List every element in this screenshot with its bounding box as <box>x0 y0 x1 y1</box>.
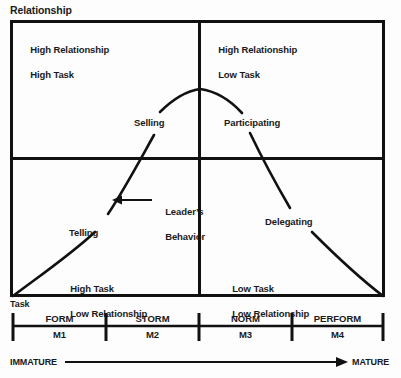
scale-stage-code-m1: M1 <box>13 329 106 340</box>
quadrant-q2-line1: High Relationship <box>30 44 109 55</box>
x-axis-label: Task <box>10 299 29 310</box>
quadrant-high-relationship-high-task: High Relationship High Task <box>20 31 109 94</box>
scale-stage-name-storm: STORM <box>106 313 199 324</box>
style-label-delegating: Delegating <box>265 216 313 227</box>
quadrant-q4-line1: Low Task <box>232 283 274 294</box>
scale-stage-name-perform: PERFORM <box>292 313 383 324</box>
quadrant-q3-line2: Low Task <box>218 69 260 80</box>
y-axis-label: Relationship <box>10 5 72 16</box>
style-label-selling: Selling <box>134 117 164 128</box>
quadrant-q1-line1: High Task <box>70 283 114 294</box>
quadrant-q3-line1: High Relationship <box>218 44 297 55</box>
style-label-participating: Participating <box>224 117 280 128</box>
quadrant-high-relationship-low-task: High Relationship Low Task <box>208 31 297 94</box>
leaders-behavior-callout: Leader’s Behavior <box>155 193 205 256</box>
scale-stage-code-m4: M4 <box>292 329 383 340</box>
continuum-label-immature: IMMATURE <box>10 357 57 368</box>
situational-leadership-diagram: Relationship High Relationship High Task… <box>0 0 401 378</box>
scale-stage-name-form: FORM <box>13 313 106 324</box>
style-label-telling: Telling <box>69 227 98 238</box>
scale-stage-code-m3: M3 <box>199 329 292 340</box>
leaders-behavior-line1: Leader’s <box>165 206 203 217</box>
continuum-label-mature: MATURE <box>352 357 389 368</box>
scale-stage-code-m2: M2 <box>106 329 199 340</box>
matrix-horizontal-divider <box>10 157 385 160</box>
quadrant-q2-line2: High Task <box>30 69 74 80</box>
scale-stage-name-norm: NORM <box>199 313 292 324</box>
maturity-scale: FORM M1 STORM M2 NORM M3 PERFORM M4 <box>0 310 401 350</box>
continuum-arrow-head <box>336 357 348 367</box>
leaders-behavior-line2: Behavior <box>165 231 205 242</box>
